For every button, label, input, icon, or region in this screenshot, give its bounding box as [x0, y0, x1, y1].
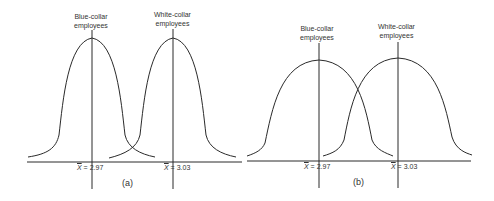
label-b-white-collar: White-collar employees — [378, 22, 415, 40]
mean-label-b-blue: X = 2.97 — [304, 163, 330, 170]
group-name-line2: employees — [74, 21, 108, 30]
group-name-line2: employees — [378, 31, 415, 40]
mean-label-a-blue: X = 2.97 — [77, 164, 103, 171]
group-name-line2: employees — [300, 33, 334, 42]
mean-label-a-white: X = 3.03 — [164, 164, 190, 171]
mean-value: = 3.03 — [396, 163, 418, 170]
panel-label-b: (b) — [353, 177, 364, 187]
group-name: White-collar — [154, 10, 191, 19]
distribution-diagram — [0, 0, 494, 201]
group-name: Blue-collar — [300, 24, 334, 33]
label-b-blue-collar: Blue-collar employees — [300, 24, 334, 42]
curve-b-blue-collar — [247, 60, 393, 156]
label-a-white-collar: White-collar employees — [154, 10, 191, 28]
group-name: White-collar — [378, 22, 415, 31]
mean-label-b-white: X = 3.03 — [391, 163, 417, 170]
panel-label-a: (a) — [122, 178, 133, 188]
mean-value: = 3.03 — [169, 164, 191, 171]
label-a-blue-collar: Blue-collar employees — [74, 12, 108, 30]
mean-value: = 2.97 — [309, 163, 331, 170]
mean-value: = 2.97 — [82, 164, 104, 171]
group-name-line2: employees — [154, 19, 191, 28]
group-name: Blue-collar — [74, 12, 108, 21]
